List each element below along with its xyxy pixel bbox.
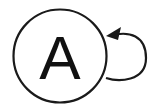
self-loop-edge — [106, 27, 146, 80]
diagram-canvas: A — [0, 0, 153, 110]
arrowhead-icon — [106, 27, 121, 40]
node-label: A — [39, 23, 81, 92]
self-loop-path — [106, 34, 146, 80]
node-a: A — [14, 10, 107, 103]
